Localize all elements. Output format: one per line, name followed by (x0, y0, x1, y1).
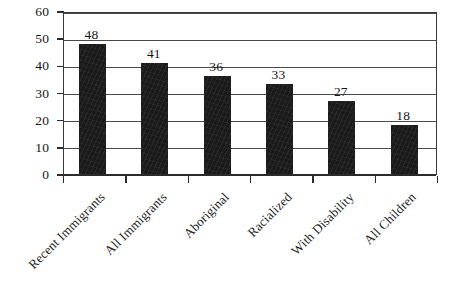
bar (391, 125, 418, 174)
bar-value-label: 36 (189, 60, 244, 74)
bar-value-label: 18 (376, 109, 431, 123)
y-axis-tick-label: 40 (3, 59, 49, 73)
x-axis-category-label: Racialized (245, 190, 294, 239)
x-axis-category-label: With Disability (289, 190, 356, 257)
y-axis-tick-label: 50 (3, 32, 49, 46)
x-axis-tick (188, 176, 189, 183)
gridline (64, 94, 436, 95)
bar-value-label: 33 (251, 68, 306, 82)
gridline (64, 148, 436, 149)
x-axis-category-label: Aboriginal (181, 190, 231, 240)
bar-texture (391, 125, 418, 174)
x-axis-tick (375, 176, 376, 183)
bar-texture (328, 101, 355, 174)
y-axis-tick-label: 0 (3, 168, 49, 182)
y-axis-tick-label: 60 (3, 5, 49, 19)
bar-texture (79, 44, 106, 174)
x-axis-category-label: All Immigrants (102, 190, 169, 257)
bar-value-label: 27 (313, 85, 368, 99)
x-axis-tick (63, 176, 64, 183)
y-axis-tick-label: 30 (3, 87, 49, 101)
bar (328, 101, 355, 174)
bar (141, 63, 168, 174)
x-axis-category-label: Recent Immigrants (25, 190, 106, 271)
x-axis-category-label: All Children (362, 190, 419, 247)
gridline (64, 67, 436, 68)
x-axis-tick (437, 176, 438, 183)
y-axis-tick-label: 20 (3, 114, 49, 128)
x-axis-tick (250, 176, 251, 183)
bar-texture (204, 76, 231, 174)
gridline (64, 40, 436, 41)
x-axis-tick (125, 176, 126, 183)
bar-value-label: 48 (64, 28, 119, 42)
bar (79, 44, 106, 174)
bar (204, 76, 231, 174)
y-axis-tick-label: 10 (3, 141, 49, 155)
bar-chart: 6050403020100 484136332718 Recent Immigr… (0, 0, 463, 284)
bar-texture (266, 84, 293, 174)
bar-texture (141, 63, 168, 174)
bar (266, 84, 293, 174)
plot-area (63, 12, 437, 175)
x-axis-tick (312, 176, 313, 183)
bar-value-label: 41 (126, 47, 181, 61)
gridline (64, 13, 436, 14)
